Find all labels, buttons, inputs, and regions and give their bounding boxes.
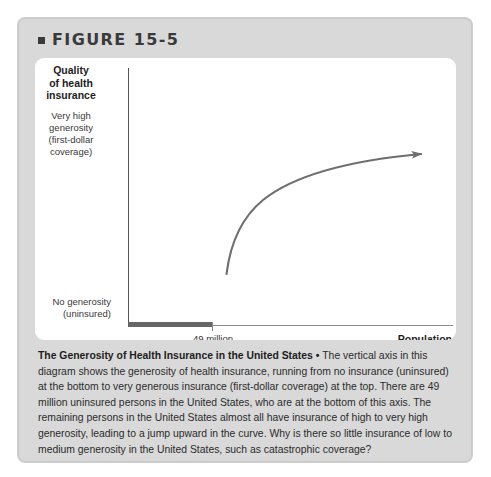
caption-body: The vertical axis in this diagram shows …: [38, 350, 452, 455]
square-bullet-icon: [38, 37, 45, 44]
chart-plot-panel: Quality of health insurance Very high ge…: [35, 58, 456, 340]
figure-caption: The Generosity of Health Insurance in th…: [38, 348, 452, 457]
caption-lead: The Generosity of Health Insurance in th…: [38, 350, 313, 361]
generosity-curve-path: [227, 154, 422, 274]
generosity-curve: [35, 58, 456, 340]
figure-number-label: FIGURE 15-5: [52, 30, 179, 49]
figure-heading: FIGURE 15-5: [38, 30, 179, 49]
figure-card: FIGURE 15-5 Quality of health insurance …: [18, 18, 472, 462]
caption-separator: •: [313, 350, 322, 361]
